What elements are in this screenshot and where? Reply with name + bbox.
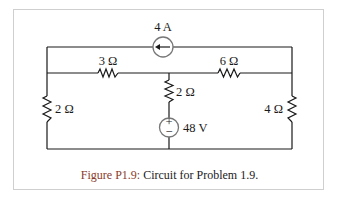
minus-sign: − xyxy=(165,125,172,139)
resistor-middle-2ohm xyxy=(165,80,173,102)
caption-label: Figure P1.9: xyxy=(81,168,140,182)
label-48v: 48 V xyxy=(183,121,207,135)
label-middle-2ohm: 2 Ω xyxy=(176,85,195,99)
label-6ohm: 6 Ω xyxy=(220,54,239,68)
resistor-4ohm xyxy=(288,96,296,122)
resistor-3ohm xyxy=(98,69,118,77)
resistor-left-2ohm xyxy=(43,96,51,122)
caption-text: Circuit for Problem 1.9. xyxy=(140,168,258,182)
current-source xyxy=(153,37,173,57)
label-3ohm: 3 Ω xyxy=(99,54,118,68)
label-left-2ohm: 2 Ω xyxy=(55,102,74,116)
label-4ohm: 4 Ω xyxy=(264,102,283,116)
figure-caption: Figure P1.9: Circuit for Problem 1.9. xyxy=(0,168,339,183)
label-current-source: 4 A xyxy=(154,20,172,34)
resistor-6ohm xyxy=(218,69,240,77)
voltage-source: + − xyxy=(160,115,179,139)
